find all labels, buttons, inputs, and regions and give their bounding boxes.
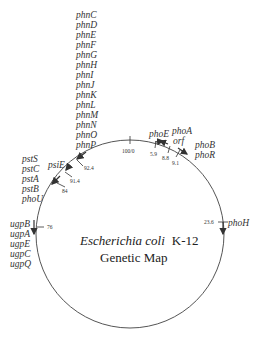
gene-phoH: phoH <box>227 218 250 228</box>
tick-84 <box>57 183 65 187</box>
svg-text:phoU: phoU <box>21 194 44 204</box>
svg-text:phnL: phnL <box>75 100 96 110</box>
pos-100: 100/0 <box>122 148 135 154</box>
svg-text:pstS: pstS <box>21 154 38 164</box>
pos-23-6: 23.6 <box>204 219 214 225</box>
svg-text:phnC: phnC <box>75 10 97 20</box>
pos-5-9: 5.9 <box>150 151 157 157</box>
svg-text:phnN: phnN <box>75 120 97 130</box>
pos-91-4: 91.4 <box>70 178 80 184</box>
svg-text:ugpC: ugpC <box>10 249 31 259</box>
svg-text:pstA: pstA <box>21 174 39 184</box>
gene-phoA: phoA <box>171 126 192 136</box>
gene-orf: orf <box>173 136 185 146</box>
svg-text:pstB: pstB <box>21 184 39 194</box>
strain-name: K-12 <box>172 233 199 248</box>
svg-text:phnM: phnM <box>75 110 99 120</box>
svg-text:ugpA: ugpA <box>10 229 30 239</box>
svg-text:phnK: phnK <box>75 90 97 100</box>
svg-text:ugpQ: ugpQ <box>10 259 31 269</box>
genetic-map-diagram: 100/0 5.9 8.8 9.1 23.6 76 84 91.4 92.4 p… <box>0 0 261 340</box>
svg-text:phnO: phnO <box>75 130 97 140</box>
svg-text:phnH: phnH <box>75 60 98 70</box>
tick-91-4 <box>65 172 72 177</box>
arrow-phoA-icon <box>160 141 168 144</box>
svg-text:phnJ: phnJ <box>75 80 95 90</box>
map-title: Escherichia coli K-12 <box>79 231 199 248</box>
svg-text:phnI: phnI <box>75 70 94 80</box>
svg-text:phnD: phnD <box>75 20 97 30</box>
gene-psiE: psiE <box>47 160 65 170</box>
tick-8-8 <box>168 146 170 153</box>
gene-phoB: phoB <box>194 140 215 150</box>
organism-name: Escherichia coli <box>79 233 165 248</box>
svg-text:phnE: phnE <box>75 30 96 40</box>
arrow-psiE-icon <box>66 165 70 170</box>
svg-text:phnP: phnP <box>75 140 96 150</box>
pos-84: 84 <box>62 188 68 194</box>
tick-92-4 <box>77 160 83 166</box>
svg-text:phnF: phnF <box>75 40 96 50</box>
gene-phoR: phoR <box>194 150 215 160</box>
ugp-gene-list: ugpB ugpA ugpE ugpC ugpQ <box>10 219 31 269</box>
gene-phoE: phoE <box>148 129 169 139</box>
svg-text:pstC: pstC <box>21 164 40 174</box>
pos-92-4: 92.4 <box>84 165 94 171</box>
svg-text:ugpE: ugpE <box>10 239 30 249</box>
map-subtitle: Genetic Map <box>100 250 168 265</box>
pst-gene-list: pstS pstC pstA pstB phoU <box>21 154 44 204</box>
svg-text:ugpB: ugpB <box>10 219 30 229</box>
pos-76: 76 <box>47 224 53 230</box>
pos-9-1: 9.1 <box>172 160 179 166</box>
svg-text:phnG: phnG <box>75 50 97 60</box>
pos-8-8: 8.8 <box>162 155 169 161</box>
phn-gene-list: phnC phnD phnE phnF phnG phnH phnI phnJ … <box>75 10 99 150</box>
